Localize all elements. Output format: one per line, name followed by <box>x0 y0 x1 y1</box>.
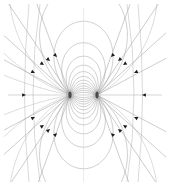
figure-background <box>0 0 170 186</box>
pole-core-pole-right <box>95 92 98 99</box>
field-line-canvas <box>0 0 170 186</box>
dipole-field-figure <box>0 0 170 186</box>
pole-core-pole-left <box>68 92 71 99</box>
